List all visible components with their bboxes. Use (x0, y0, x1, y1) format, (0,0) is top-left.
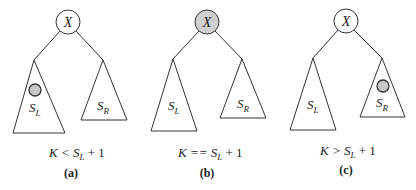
right-subtree-label: SR (376, 95, 389, 113)
left-subtree (151, 59, 197, 131)
edge-right (76, 31, 103, 60)
tree-cases-diagram: X SL SR K < SL + 1 (a) X SL SR K == SL +… (0, 0, 416, 190)
root-label: X (63, 15, 73, 30)
left-subtree (290, 58, 336, 130)
left-subtree-label: SL (168, 98, 180, 116)
edge-left (173, 31, 199, 59)
left-subtree (13, 60, 65, 133)
right-subtree-label: SR (97, 98, 110, 116)
target-marker (29, 84, 41, 96)
left-subtree-label: SL (29, 100, 41, 118)
target-marker (377, 80, 389, 92)
root-label: X (202, 15, 212, 30)
condition-c: K > SL + 1 (319, 143, 376, 160)
edge-right (354, 30, 382, 58)
edge-right (215, 31, 242, 59)
right-subtree-label: SR (237, 96, 250, 114)
caption-a: (a) (64, 166, 78, 180)
caption-b: (b) (200, 166, 215, 180)
edge-left (313, 30, 338, 58)
root-label: X (341, 14, 351, 29)
condition-a: K < SL + 1 (48, 145, 105, 162)
left-subtree-label: SL (307, 97, 319, 115)
edge-left (34, 31, 60, 60)
caption-c: (c) (339, 163, 352, 177)
condition-b: K == SL + 1 (177, 145, 243, 162)
